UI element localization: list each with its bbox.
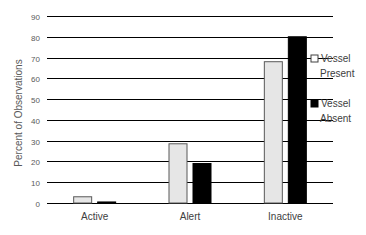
legend-label: Present	[320, 68, 355, 79]
x-category-label: Alert	[180, 211, 201, 222]
bar-vessel-present-alert	[169, 144, 187, 203]
y-axis-label: Percent of Observations	[13, 59, 24, 166]
x-category-label: Inactive	[268, 211, 303, 222]
legend-label: Vessel	[321, 98, 350, 109]
legend-swatch-vessel-absent	[311, 100, 318, 107]
y-tick-label: 0	[36, 200, 41, 209]
bar-chart: 0102030405060708090 ActiveAlertInactive …	[0, 0, 366, 235]
y-tick-label: 60	[31, 75, 40, 84]
y-tick-label: 40	[31, 117, 40, 126]
bar-vessel-present-active	[74, 197, 92, 203]
bar-vessel-absent-alert	[193, 164, 211, 203]
bars	[74, 37, 307, 203]
y-tick-label: 20	[31, 158, 40, 167]
y-tick-label: 50	[31, 96, 40, 105]
legend-label: Absent	[320, 113, 351, 124]
y-tick-label: 70	[31, 55, 40, 64]
y-tick-label: 10	[31, 179, 40, 188]
y-tick-label: 30	[31, 138, 40, 147]
y-tick-label: 90	[31, 13, 40, 22]
y-axis-ticks: 0102030405060708090	[31, 13, 40, 209]
legend-label: Vessel	[321, 53, 350, 64]
y-tick-label: 80	[31, 34, 40, 43]
bar-vessel-absent-inactive	[288, 37, 306, 203]
legend: VesselPresentVesselAbsent	[311, 53, 355, 124]
bar-vessel-absent-active	[98, 202, 116, 203]
x-axis-categories: ActiveAlertInactive	[81, 211, 303, 222]
x-category-label: Active	[81, 211, 109, 222]
legend-swatch-vessel-present	[311, 55, 318, 62]
bar-vessel-present-inactive	[264, 62, 282, 203]
